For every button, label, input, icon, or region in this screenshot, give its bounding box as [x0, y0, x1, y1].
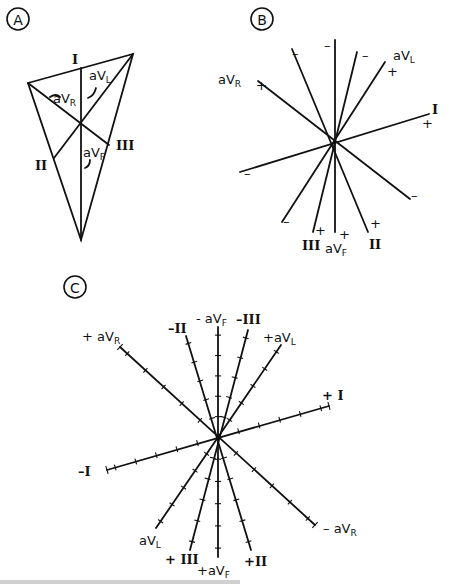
lead-label: –: [244, 166, 251, 181]
lead-label: –: [283, 214, 290, 229]
lead-label: –: [362, 48, 369, 63]
lead-label: II: [35, 158, 47, 173]
lead-label: aVL: [89, 68, 111, 85]
hexaxial-reference-figure: AIaVLaVRaVFIIIII BaVR+–––aVL+I+–––+++III…: [0, 0, 450, 588]
axis-tick: [243, 337, 249, 339]
axis-II: [292, 49, 368, 232]
lead-label: aVR: [53, 91, 76, 108]
lead-label: +: [370, 216, 381, 231]
lead-label: + III: [165, 552, 199, 567]
panel-b-lead-axes: BaVR+–––aVL+I+–––+++IIIaVFII: [218, 8, 438, 258]
lead-label: +: [422, 116, 433, 131]
lead-label: I: [72, 52, 78, 67]
axis-tick: [232, 377, 238, 379]
axis-tick: [279, 417, 281, 423]
axis-tick: [189, 541, 195, 542]
lead-label: –II: [168, 321, 187, 336]
axis-aVL: [282, 62, 385, 222]
axis-tick: [320, 405, 322, 411]
lead-label: aVL: [139, 533, 161, 550]
panel-a-einthoven-triangle: AIaVLaVRaVFIIIII: [7, 8, 134, 240]
lead-label: –: [411, 188, 418, 203]
panel-badge-letter: C: [70, 280, 80, 296]
angle-arc-avf: [85, 160, 90, 168]
figure-caption-cropped: [0, 580, 240, 584]
lead-label: aVF: [325, 241, 347, 258]
lead-label: +aVL: [263, 330, 296, 347]
lead-label: +aVF: [197, 563, 230, 580]
lead-label: aVL: [393, 48, 415, 65]
axis-III: [190, 330, 248, 550]
lead-label: II: [369, 237, 381, 252]
lead-label: –: [292, 46, 299, 61]
panel-badge-letter: B: [257, 12, 267, 28]
lead-label: III: [302, 238, 320, 253]
lead-label: aVR: [218, 72, 241, 89]
panel-badge-letter: A: [13, 12, 23, 28]
axis-tick: [258, 423, 260, 429]
lead-label: + I: [322, 388, 344, 403]
axis-tick: [194, 520, 200, 521]
lead-label: III: [116, 138, 134, 153]
axis-tick: [299, 411, 301, 417]
angle-arc-avl: [88, 88, 96, 98]
lead-label: aVF: [83, 145, 105, 162]
lead-label: +: [256, 78, 267, 93]
lead-label: - aVF: [196, 311, 227, 328]
lead-label: –III: [236, 312, 261, 327]
lead-label: –: [324, 38, 331, 53]
panel-c-hexaxial-reference-system: C+ aVR–II- aVF–III+aVL+ I–I– aVRaVL+ III…: [64, 276, 357, 580]
lead-label: I: [432, 102, 438, 117]
lead-label: –I: [78, 464, 91, 479]
lead-label: +: [387, 64, 398, 79]
lead-label: + aVR: [82, 329, 120, 346]
axis-tick: [238, 428, 240, 434]
lead-label: – aVR: [323, 521, 357, 538]
axis-tick: [200, 499, 206, 500]
lead-label: +II: [244, 554, 267, 569]
lead-label: +: [339, 227, 350, 242]
lead-label: +: [315, 223, 326, 238]
axis-tick: [237, 357, 243, 359]
